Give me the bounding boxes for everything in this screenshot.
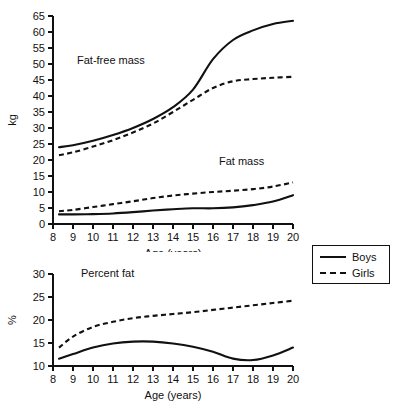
x-tick-label: 15 (187, 231, 199, 243)
x-tick-label: 9 (70, 231, 76, 243)
y-tick-label: 20 (33, 154, 45, 166)
x-tick-label: 11 (107, 231, 118, 243)
x-tick-label: 19 (267, 373, 279, 385)
x-tick-label: 9 (70, 373, 76, 385)
x-tick-label: 20 (287, 231, 299, 243)
legend-item-girls: Girls (320, 267, 375, 279)
x-tick-label: 15 (187, 373, 199, 385)
figure-root: 0510152025303540455055606589101112131415… (0, 0, 396, 413)
legend-label-boys: Boys (352, 251, 376, 263)
chart-percent-body-fat: 1015202530891011121314151617181920Percen… (0, 252, 310, 413)
x-tick-label: 11 (107, 373, 118, 385)
y-tick-label: 15 (33, 337, 45, 349)
y-tick-label: 45 (33, 74, 45, 86)
series-line (59, 21, 293, 147)
y-tick-label: 25 (33, 138, 45, 150)
y-tick-label: 5 (39, 202, 45, 214)
x-tick-label: 17 (227, 373, 239, 385)
legend: Boys Girls (312, 245, 390, 284)
x-tick-label: 8 (50, 373, 56, 385)
x-tick-label: 8 (50, 231, 56, 243)
y-tick-label: 0 (39, 218, 45, 230)
x-tick-label: 12 (127, 231, 139, 243)
x-tick-label: 14 (167, 231, 179, 243)
legend-swatch-solid (320, 256, 346, 258)
y-tick-label: 10 (33, 360, 45, 372)
plot-annotation: Fat mass (219, 155, 265, 167)
y-tick-label: 10 (33, 186, 45, 198)
legend-swatch-dashed (320, 272, 346, 274)
x-tick-label: 10 (87, 373, 99, 385)
plot-annotation: Fat-free mass (77, 54, 145, 66)
x-tick-label: 17 (227, 231, 239, 243)
x-tick-label: 13 (147, 373, 159, 385)
x-tick-label: 10 (87, 231, 99, 243)
y-tick-label: 15 (33, 170, 45, 182)
y-tick-label: 35 (33, 106, 45, 118)
y-tick-label: 30 (33, 122, 45, 134)
series-line (59, 195, 293, 214)
y-tick-label: 40 (33, 90, 45, 102)
x-tick-label: 19 (267, 231, 279, 243)
percent-chart-svg: 1015202530891011121314151617181920Percen… (0, 252, 310, 413)
x-tick-label: 16 (207, 231, 219, 243)
y-tick-label: 60 (33, 26, 45, 38)
x-tick-label: 14 (167, 373, 179, 385)
series-line (59, 301, 293, 348)
plot-annotation: Percent fat (81, 267, 134, 279)
x-tick-label: 20 (287, 373, 299, 385)
x-tick-label: 18 (247, 231, 259, 243)
series-line (59, 182, 293, 211)
x-tick-label: 12 (127, 373, 139, 385)
series-line (59, 77, 293, 155)
y-tick-label: 20 (33, 314, 45, 326)
mass-chart-svg: 0510152025303540455055606589101112131415… (0, 0, 310, 252)
chart-body-composition-mass: 0510152025303540455055606589101112131415… (0, 0, 310, 252)
y-tick-label: 65 (33, 10, 45, 22)
y-tick-label: 30 (33, 268, 45, 280)
y-axis-title: % (6, 315, 18, 325)
y-tick-label: 50 (33, 58, 45, 70)
y-tick-label: 25 (33, 291, 45, 303)
x-tick-label: 13 (147, 231, 159, 243)
series-line (59, 341, 293, 360)
x-tick-label: 16 (207, 373, 219, 385)
legend-label-girls: Girls (352, 267, 375, 279)
y-axis-title: kg (6, 114, 18, 126)
y-tick-label: 55 (33, 42, 45, 54)
legend-item-boys: Boys (320, 251, 376, 263)
x-axis-title: Age (years) (145, 389, 202, 401)
x-tick-label: 18 (247, 373, 259, 385)
